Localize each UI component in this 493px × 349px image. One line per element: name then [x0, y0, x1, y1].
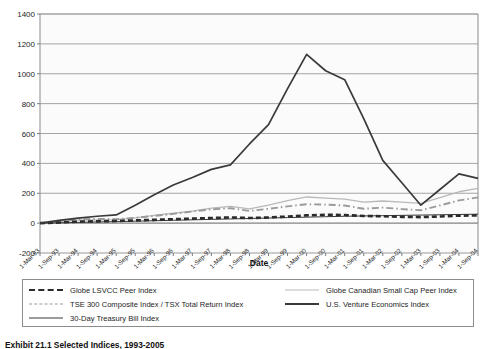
legend-label: U.S. Venture Economics Index: [326, 300, 429, 309]
legend-item-globe-canadian-small-cap-peer-index: Globe Canadian Small Cap Peer Index: [285, 283, 471, 297]
y-axis-tick-label: 1200: [17, 40, 35, 49]
line-chart-plot: -20002004006008001000120014001-Mar-931-S…: [0, 0, 493, 270]
chart-area: -20002004006008001000120014001-Mar-931-S…: [0, 0, 493, 270]
y-axis-tick-label: 600: [22, 130, 36, 139]
legend-column-left: Globe LSVCC Peer Index TSE 300 Composite…: [29, 283, 279, 325]
y-axis-tick-label: 1000: [17, 70, 35, 79]
legend-swatch-solid-light-icon: [285, 285, 319, 295]
legend-item-30-day-treasury-bill-index: 30-Day Treasury Bill Index: [29, 311, 279, 325]
legend-label: 30-Day Treasury Bill Index: [70, 314, 159, 323]
x-axis-title: Date: [250, 258, 269, 268]
legend-item-us-venture-economics-index: U.S. Venture Economics Index: [285, 297, 471, 311]
legend-swatch-solid-dark-icon: [285, 299, 319, 309]
legend-item-globe-lsvcc-peer-index: Globe LSVCC Peer Index: [29, 283, 279, 297]
legend-column-right: Globe Canadian Small Cap Peer Index U.S.…: [285, 283, 471, 311]
legend-swatch-dashdot-icon: [29, 299, 63, 309]
y-axis-tick-label: 400: [22, 159, 36, 168]
y-axis-tick-label: 1400: [17, 10, 35, 19]
legend-swatch-dash-icon: [29, 285, 63, 295]
legend-label: Globe Canadian Small Cap Peer Index: [326, 286, 457, 295]
legend-label: Globe LSVCC Peer Index: [70, 286, 157, 295]
chart-screenshot: -20002004006008001000120014001-Mar-931-S…: [0, 0, 493, 349]
exhibit-caption: Exhibit 21.1 Selected Indices, 1993-2005: [5, 340, 485, 349]
legend-label: TSE 300 Composite Index / TSX Total Retu…: [70, 300, 243, 309]
legend-item-tse-300-composite-index: TSE 300 Composite Index / TSX Total Retu…: [29, 297, 279, 311]
y-axis-tick-label: 800: [22, 100, 36, 109]
chart-legend: Globe LSVCC Peer Index TSE 300 Composite…: [22, 279, 474, 327]
legend-swatch-solid-thin-icon: [29, 313, 63, 323]
y-axis-tick-label: 200: [22, 189, 36, 198]
y-axis-tick-label: 0: [31, 219, 36, 228]
